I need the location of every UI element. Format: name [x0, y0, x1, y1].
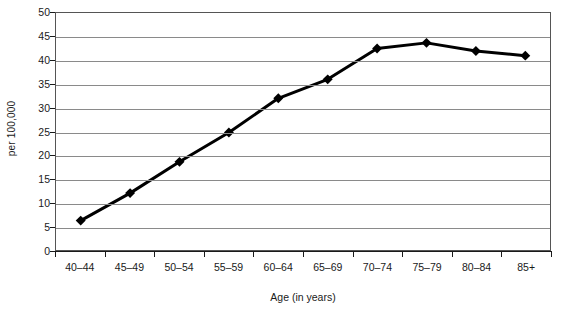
- line-chart: per 100,000 05101520253035404550 40–4445…: [0, 0, 562, 312]
- x-axis-tick-label: 50–54: [164, 262, 193, 274]
- y-axis-tick-label: 40: [24, 55, 50, 66]
- y-axis-tick-label: 30: [24, 102, 50, 113]
- y-axis-tick-label: 10: [24, 198, 50, 209]
- gridline: [56, 156, 550, 157]
- y-axis-tick-label: 35: [24, 78, 50, 89]
- x-axis-tick-mark: [154, 251, 155, 257]
- x-axis-tick-label: 80–84: [462, 262, 491, 274]
- y-axis-tick-mark: [50, 227, 55, 228]
- gridline: [56, 61, 550, 62]
- y-axis-tick-label: 20: [24, 150, 50, 161]
- plot-area: [55, 12, 551, 251]
- x-axis-tick-label: 85+: [517, 262, 535, 274]
- y-axis-tick-mark: [50, 132, 55, 133]
- y-axis-tick-mark: [50, 179, 55, 180]
- y-axis-tick-label: 0: [24, 246, 50, 257]
- x-axis-tick-mark: [303, 251, 304, 257]
- x-axis-tick-mark: [105, 251, 106, 257]
- gridline: [56, 85, 550, 86]
- x-axis-tick-mark: [501, 251, 502, 257]
- y-axis-title: per 100,000: [0, 0, 24, 256]
- y-axis-tick-mark: [50, 203, 55, 204]
- y-axis-tick-mark: [50, 155, 55, 156]
- y-axis-tick-mark: [50, 36, 55, 37]
- y-axis-tick-labels: 05101520253035404550: [22, 0, 50, 312]
- y-axis-tick-mark: [50, 251, 55, 252]
- y-axis-tick-label: 15: [24, 174, 50, 185]
- x-axis-tick-mark: [402, 251, 403, 257]
- x-axis-tick-label: 70–74: [363, 262, 392, 274]
- gridline: [56, 133, 550, 134]
- y-axis-tick-label: 50: [24, 7, 50, 18]
- x-axis-tick-mark: [551, 251, 552, 257]
- y-axis-tick-mark: [50, 108, 55, 109]
- x-axis-tick-mark: [55, 251, 56, 257]
- data-point-marker: [422, 38, 432, 48]
- series-line-svg: [56, 13, 550, 250]
- gridline: [56, 109, 550, 110]
- gridline: [56, 228, 550, 229]
- y-axis-tick-label: 5: [24, 222, 50, 233]
- x-axis-title: Age (in years): [55, 291, 551, 303]
- x-axis-tick-mark: [204, 251, 205, 257]
- gridline: [56, 37, 550, 38]
- gridline: [56, 180, 550, 181]
- x-axis-tick-label: 45–49: [115, 262, 144, 274]
- y-axis-tick-label: 25: [24, 126, 50, 137]
- y-axis-title-text: per 100,000: [7, 100, 18, 156]
- y-axis-tick-mark: [50, 12, 55, 13]
- x-axis-tick-mark: [353, 251, 354, 257]
- x-axis-tick-mark: [253, 251, 254, 257]
- x-axis-tick-label: 75–79: [412, 262, 441, 274]
- x-axis-tick-mark: [452, 251, 453, 257]
- x-axis-tick-label: 65–69: [313, 262, 342, 274]
- y-axis-tick-mark: [50, 84, 55, 85]
- data-point-marker: [520, 51, 530, 61]
- gridline: [56, 204, 550, 205]
- y-axis-tick-label: 45: [24, 31, 50, 42]
- x-axis-tick-label: 55–59: [214, 262, 243, 274]
- x-axis-tick-label: 60–64: [264, 262, 293, 274]
- x-axis-tick-label: 40–44: [65, 262, 94, 274]
- y-axis-tick-mark: [50, 60, 55, 61]
- data-point-marker: [471, 46, 481, 56]
